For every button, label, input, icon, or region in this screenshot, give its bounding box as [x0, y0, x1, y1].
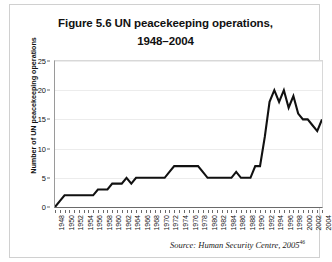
- x-tick-label: 1952: [77, 215, 84, 231]
- x-tick-label: 1980: [211, 215, 218, 231]
- x-tick-mark: [150, 210, 151, 213]
- x-tick-mark: [169, 210, 170, 213]
- x-tick-mark: [88, 210, 89, 213]
- x-tick-label: 1956: [96, 215, 103, 231]
- x-tick-label: 1994: [277, 215, 284, 231]
- x-tick-mark: [222, 210, 223, 213]
- x-tick-label: 1974: [182, 215, 189, 231]
- x-tick-mark: [112, 210, 113, 213]
- series-line: [55, 61, 322, 207]
- x-tick-mark: [84, 210, 85, 213]
- y-axis-tick-labels: 0510152025: [10, 60, 50, 208]
- x-tick-mark: [308, 210, 309, 213]
- x-tick-label: 1976: [192, 215, 199, 231]
- x-tick-mark: [174, 210, 175, 213]
- y-tick-mark: [47, 177, 50, 178]
- x-tick-label: 1986: [239, 215, 246, 231]
- x-tick-mark: [198, 210, 199, 213]
- y-tick-label: 10: [38, 144, 46, 153]
- x-tick-label: 1992: [268, 215, 275, 231]
- x-tick-mark: [184, 210, 185, 213]
- x-tick-mark: [160, 210, 161, 213]
- x-tick-mark: [289, 210, 290, 213]
- y-tick-label: 0: [42, 203, 46, 212]
- x-tick-mark: [293, 210, 294, 213]
- x-tick-label: 1984: [230, 215, 237, 231]
- x-tick-mark: [193, 210, 194, 213]
- x-tick-label: 2004: [325, 215, 332, 231]
- x-tick-mark: [303, 210, 304, 213]
- x-tick-mark: [98, 210, 99, 213]
- x-tick-mark: [265, 210, 266, 213]
- x-tick-mark: [189, 210, 190, 213]
- x-tick-label: 1958: [106, 215, 113, 231]
- x-tick-mark: [212, 210, 213, 213]
- chart-title-line-1: Figure 5.6 UN peacekeeping operations,: [28, 15, 303, 33]
- x-tick-label: 2002: [315, 215, 322, 231]
- x-tick-mark: [55, 210, 56, 213]
- x-tick-mark: [203, 210, 204, 213]
- x-tick-mark: [208, 210, 209, 213]
- x-tick-mark: [136, 210, 137, 213]
- x-tick-mark: [179, 210, 180, 213]
- x-axis-tick-labels: 1948195019521954195619581960196219641966…: [54, 210, 323, 262]
- x-tick-mark: [117, 210, 118, 213]
- figure-frame: Figure 5.6 UN peacekeeping operations, 1…: [9, 4, 320, 258]
- x-tick-label: 2000: [306, 215, 313, 231]
- y-tick-label: 15: [38, 115, 46, 124]
- x-tick-mark: [298, 210, 299, 213]
- plot-area: [54, 60, 323, 208]
- y-tick-mark: [47, 119, 50, 120]
- x-tick-label: 1970: [163, 215, 170, 231]
- x-tick-label: 1988: [249, 215, 256, 231]
- x-tick-mark: [107, 210, 108, 213]
- x-tick-label: 1964: [134, 215, 141, 231]
- x-tick-mark: [246, 210, 247, 213]
- x-tick-label: 1948: [58, 215, 65, 231]
- x-tick-label: 1950: [68, 215, 75, 231]
- source-note-text: Source: Human Security Centre, 2005: [170, 240, 299, 250]
- x-tick-mark: [236, 210, 237, 213]
- y-tick-label: 5: [42, 173, 46, 182]
- x-tick-mark: [122, 210, 123, 213]
- x-tick-mark: [79, 210, 80, 213]
- x-tick-mark: [217, 210, 218, 213]
- chart-title: Figure 5.6 UN peacekeeping operations, 1…: [28, 15, 303, 51]
- x-tick-mark: [274, 210, 275, 213]
- x-tick-mark: [284, 210, 285, 213]
- x-tick-mark: [270, 210, 271, 213]
- x-tick-label: 1982: [220, 215, 227, 231]
- x-tick-mark: [60, 210, 61, 213]
- x-tick-mark: [317, 210, 318, 213]
- x-tick-mark: [260, 210, 261, 213]
- x-tick-mark: [131, 210, 132, 213]
- x-tick-mark: [127, 210, 128, 213]
- y-tick-label: 20: [38, 86, 46, 95]
- x-tick-mark: [146, 210, 147, 213]
- chart-title-line-2: 1948–2004: [28, 33, 303, 51]
- x-tick-mark: [155, 210, 156, 213]
- y-tick-label: 25: [38, 57, 46, 66]
- y-tick-mark: [47, 90, 50, 91]
- x-tick-mark: [255, 210, 256, 213]
- x-tick-label: 1972: [172, 215, 179, 231]
- x-tick-label: 1954: [87, 215, 94, 231]
- y-tick-mark: [47, 207, 50, 208]
- x-tick-mark: [227, 210, 228, 213]
- x-tick-label: 1962: [125, 215, 132, 231]
- source-note-superscript: 46: [300, 239, 306, 245]
- x-tick-mark: [312, 210, 313, 213]
- x-tick-label: 1996: [287, 215, 294, 231]
- x-tick-mark: [74, 210, 75, 213]
- x-tick-mark: [65, 210, 66, 213]
- x-tick-label: 1960: [115, 215, 122, 231]
- x-tick-label: 1998: [296, 215, 303, 231]
- source-note: Source: Human Security Centre, 200546: [170, 239, 305, 250]
- y-tick-mark: [47, 61, 50, 62]
- x-tick-mark: [231, 210, 232, 213]
- x-tick-label: 1978: [201, 215, 208, 231]
- x-tick-mark: [93, 210, 94, 213]
- x-tick-label: 1966: [144, 215, 151, 231]
- x-tick-label: 1968: [153, 215, 160, 231]
- y-tick-mark: [47, 148, 50, 149]
